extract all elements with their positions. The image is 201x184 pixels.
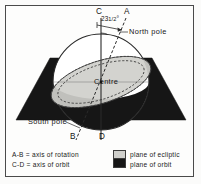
tilt-angle-value: 23	[101, 15, 108, 22]
label-south-pole: South pole	[28, 118, 67, 125]
label-tilt-angle: 231/2°	[101, 16, 119, 22]
ecliptic-swatch	[114, 151, 125, 159]
label-axis-d: D	[99, 133, 106, 141]
label-north-pole: North pole	[129, 28, 167, 35]
label-axis-a: A	[124, 8, 130, 16]
figure-container: C A B D North pole South pole Centre 231…	[0, 0, 201, 184]
orbit-swatch	[114, 159, 125, 167]
legend-swatch-box	[113, 150, 126, 168]
legend-axis-rotation: A-B = axis of rotation	[12, 150, 79, 160]
legend-plane-ecliptic: plane of ecliptic	[130, 150, 180, 160]
label-centre: Centre	[94, 78, 118, 85]
legend-axis-orbit: C-D = axis of orbit	[12, 160, 79, 170]
legend-plane-orbit: plane of orbit	[130, 160, 180, 170]
legend-plane-labels: plane of ecliptic plane of orbit	[130, 150, 180, 169]
legend-planes: plane of ecliptic plane of orbit	[113, 150, 180, 169]
tilt-angle-degree-symbol: °	[116, 15, 119, 22]
legend-axes: A-B = axis of rotation C-D = axis of orb…	[12, 150, 79, 169]
label-axis-b: B	[70, 133, 76, 141]
